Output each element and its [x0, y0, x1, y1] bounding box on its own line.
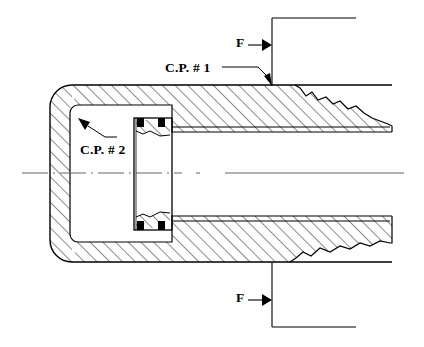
contact-point-1-label: C.P. # 1 [165, 60, 210, 76]
leader-cp2 [78, 118, 117, 137]
seal-element [130, 115, 175, 233]
cp2-leader-line [88, 126, 105, 137]
seal-contact-block-top-right [158, 118, 165, 127]
arrow-up-left-icon-cp2 [78, 118, 90, 130]
contact-point-2-label: C.P. # 2 [80, 142, 125, 158]
seal-contact-block-bottom-right [158, 221, 165, 230]
force-bottom-label: F [236, 290, 244, 306]
figure-canvas: C.P. # 1 C.P. # 2 F F [0, 0, 424, 347]
arrow-right-icon-bottom [262, 294, 272, 306]
cross-section-drawing [0, 0, 424, 347]
force-top-label: F [236, 35, 244, 51]
arrow-right-icon-top [262, 39, 272, 51]
force-indicator-top [248, 18, 356, 86]
seal-contact-block-top-left [137, 118, 144, 127]
seal-contact-block-bottom-left [137, 221, 144, 230]
arrow-down-right-icon-cp1 [264, 73, 272, 86]
force-indicator-bottom [248, 262, 356, 327]
shaft-outline [172, 127, 390, 221]
seal-bottom-wedge-hatch [130, 203, 175, 233]
leader-cp1 [222, 67, 272, 86]
housing-section [40, 75, 410, 275]
seal-top-wedge-hatch [130, 115, 175, 145]
